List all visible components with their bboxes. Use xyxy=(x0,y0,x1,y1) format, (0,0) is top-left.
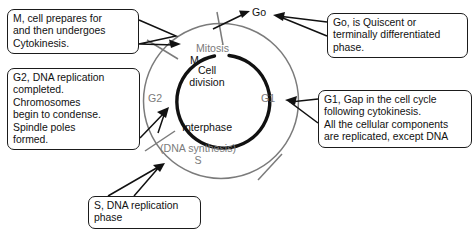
label-cell-division-line2: division xyxy=(189,77,224,89)
label-dna-synthesis: (DNA synthesis) xyxy=(160,143,236,155)
callout-g2-phase: G2, DNA replication completed. Chromosom… xyxy=(7,68,140,150)
label-cell-division: Cell division xyxy=(189,65,224,88)
leader-m-arrow-head xyxy=(169,40,181,49)
leader-s-callout xyxy=(108,166,160,196)
leader-go-arrow-head xyxy=(273,12,285,21)
label-s-phase: S xyxy=(194,155,201,167)
leader-go-callout xyxy=(278,16,327,36)
label-g1-phase: G1 xyxy=(261,93,275,105)
label-g0-exit: Go xyxy=(252,7,266,19)
callout-s-phase: S, DNA replication phase xyxy=(88,196,201,229)
label-mitosis: Mitosis xyxy=(196,43,229,55)
tick-m-g0-top xyxy=(217,12,223,45)
g0-exit-arrow-head xyxy=(239,11,250,19)
cell-cycle-diagram: Mitosis M G2 G1 (DNA synthesis) S Cell d… xyxy=(0,0,476,234)
callout-g0-phase: Go, is Quiscent or terminally differenti… xyxy=(327,13,468,58)
callout-m-phase: M, cell prepares for and then undergoes … xyxy=(7,9,139,54)
label-g2-phase: G2 xyxy=(148,93,162,105)
callout-g1-phase: G1, Gap in the cell cycle following cyto… xyxy=(318,90,472,148)
leader-s-arrow-head xyxy=(153,163,165,172)
label-cell-division-line1: Cell xyxy=(189,65,224,77)
label-interphase: Interphase xyxy=(182,122,232,134)
leader-g2-callout xyxy=(140,112,165,138)
